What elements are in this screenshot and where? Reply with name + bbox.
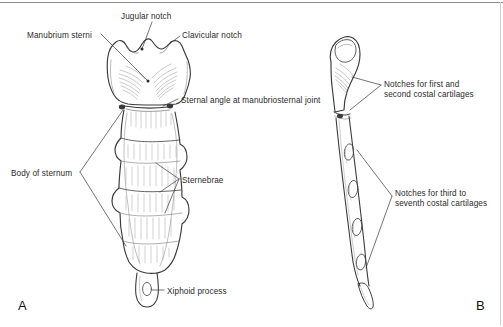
label-notches-third-seventh: Notches for third to seventh costal cart… bbox=[395, 189, 487, 209]
sternum-body-lateral-outline bbox=[336, 116, 369, 286]
manubrium-lateral-outline bbox=[330, 37, 360, 112]
label-clavicular-notch: Clavicular notch bbox=[182, 31, 242, 41]
label-body-of-sternum: Body of sternum bbox=[11, 169, 72, 179]
panel-label-b: B bbox=[476, 298, 485, 313]
manubrium-hatching-right bbox=[152, 64, 177, 99]
panel-label-a: A bbox=[18, 298, 27, 313]
manubrium-hatching-left bbox=[119, 66, 145, 99]
leader-endpoint-dots bbox=[141, 48, 150, 83]
label-jugular-notch: Jugular notch bbox=[121, 12, 171, 22]
manubrium-anterior-outline bbox=[107, 39, 190, 105]
label-manubrium-sterni: Manubrium sterni bbox=[27, 31, 92, 41]
label-sternal-angle: Sternal angle at manubriosternal joint bbox=[181, 96, 320, 106]
label-notches-first-second: Notches for first and second costal cart… bbox=[384, 80, 474, 100]
xiphoid-lateral-outline bbox=[358, 283, 373, 309]
sternum-body-hatching bbox=[126, 112, 176, 263]
sternebrae-transverse-ridges bbox=[119, 138, 182, 244]
sternum-anatomical-figure bbox=[0, 0, 503, 327]
label-xiphoid-process: Xiphoid process bbox=[167, 287, 227, 297]
label-sternebrae: Sternebrae bbox=[182, 176, 224, 186]
